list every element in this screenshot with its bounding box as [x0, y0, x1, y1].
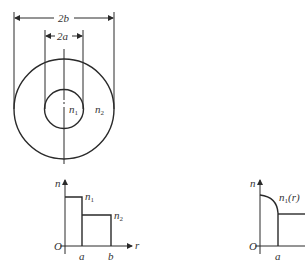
graded-tick-a-label: a [275, 250, 281, 262]
graded-index-profile-plot: n O a n1(r) [249, 177, 305, 262]
graded-origin-label: O [249, 240, 257, 252]
graded-core-curve-label: n1(r) [279, 191, 300, 205]
step-cladding-level-label: n2 [114, 209, 124, 223]
step-tick-a-label: a [79, 250, 85, 262]
step-core-level-label: n1 [85, 190, 95, 204]
step-y-axis-label: n [55, 177, 61, 189]
core-index-label: n1 [69, 103, 79, 117]
outer-dimension-label: 2b [58, 12, 70, 24]
graded-core-curve [260, 195, 278, 246]
step-x-axis-label: r [135, 239, 140, 251]
fiber-cross-section: 2b 2a n1 n2 [14, 12, 114, 164]
cladding-index-label: n2 [95, 103, 105, 117]
graded-y-axis-label: n [250, 177, 256, 189]
step-core-level [65, 197, 82, 246]
step-tick-b-label: b [108, 250, 114, 262]
inner-dimension-label: 2a [57, 30, 69, 42]
step-index-profile-plot: n r O a b n1 n2 [54, 177, 140, 262]
fiber-diagram: 2b 2a n1 n2 n r O a b n1 [0, 0, 305, 268]
step-origin-label: O [54, 240, 62, 252]
step-cladding-level [82, 215, 111, 246]
